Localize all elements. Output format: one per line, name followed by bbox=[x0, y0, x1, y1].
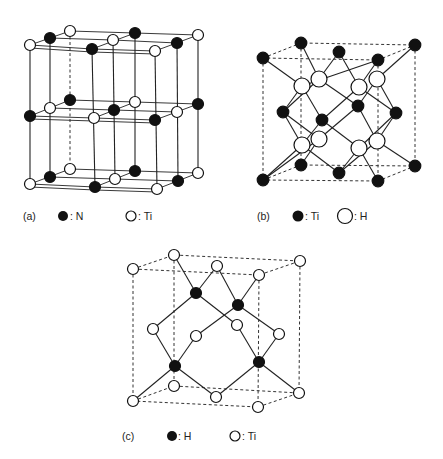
ti-atom bbox=[45, 103, 56, 114]
legend-b-open-text: : H bbox=[354, 210, 367, 222]
filled-circle-icon bbox=[58, 211, 68, 221]
ti-atom bbox=[232, 320, 243, 331]
filled-circle-icon bbox=[293, 211, 304, 222]
panel-a-structure bbox=[25, 26, 204, 195]
panel-a-legend: (a) : N : Ti bbox=[23, 210, 152, 222]
h-atom bbox=[311, 131, 327, 147]
ti-atom bbox=[128, 264, 139, 275]
ti-atom bbox=[295, 37, 307, 49]
ti-atom bbox=[274, 329, 285, 340]
ti-atom bbox=[295, 256, 306, 267]
ti-atom bbox=[169, 381, 180, 392]
ti-atom bbox=[409, 160, 421, 172]
ti-atom bbox=[25, 179, 36, 190]
ti-atom bbox=[172, 107, 183, 118]
ti-atom bbox=[211, 392, 222, 403]
n-atom bbox=[173, 176, 184, 187]
ti-atom bbox=[333, 46, 345, 58]
ti-atom bbox=[257, 174, 269, 186]
h-atom bbox=[311, 71, 327, 87]
ti-atom bbox=[193, 168, 204, 179]
ti-atom bbox=[333, 167, 345, 179]
ti-atom bbox=[372, 54, 384, 66]
ti-atom bbox=[294, 388, 305, 399]
n-atom bbox=[90, 182, 101, 193]
open-circle-icon bbox=[338, 209, 353, 224]
panel-c-label: (c) bbox=[122, 430, 134, 442]
ti-atom bbox=[409, 39, 421, 51]
n-atom bbox=[150, 115, 161, 126]
legend-c-open-text: : Ti bbox=[242, 430, 256, 442]
n-atom bbox=[130, 28, 141, 39]
h-atom bbox=[294, 137, 310, 153]
panel-b-legend: (b) : Ti : H bbox=[257, 209, 367, 224]
n-atom bbox=[45, 172, 56, 183]
h-atom bbox=[170, 361, 181, 372]
ti-atom bbox=[253, 402, 264, 413]
panel-b-structure bbox=[257, 37, 421, 187]
ti-atom bbox=[65, 26, 76, 37]
n-atom bbox=[65, 95, 76, 106]
n-atom bbox=[193, 99, 204, 110]
h-atom bbox=[369, 71, 385, 87]
ti-atom bbox=[191, 331, 202, 342]
h-atom bbox=[369, 133, 385, 149]
h-atom bbox=[191, 288, 202, 299]
ti-atom bbox=[169, 250, 180, 261]
ti-atom bbox=[390, 107, 402, 119]
panel-b-label: (b) bbox=[257, 210, 270, 222]
panel-c-legend: (c) : H : Ti bbox=[122, 430, 256, 442]
legend-c-filled-text: : H bbox=[178, 430, 191, 442]
panel-a-label: (a) bbox=[23, 210, 36, 222]
ti-atom bbox=[277, 106, 289, 118]
ti-atom bbox=[150, 46, 161, 57]
filled-circle-icon bbox=[167, 431, 177, 441]
n-atom bbox=[45, 33, 56, 44]
ti-atom bbox=[108, 35, 119, 46]
ti-atom bbox=[25, 40, 36, 51]
h-atom bbox=[351, 140, 367, 156]
n-atom bbox=[25, 111, 36, 122]
h-atom bbox=[233, 300, 244, 311]
ti-atom bbox=[110, 174, 121, 185]
n-atom bbox=[130, 166, 141, 177]
ti-atom bbox=[295, 159, 307, 171]
h-atom bbox=[254, 357, 265, 368]
legend-b-filled-text: : Ti bbox=[305, 210, 319, 222]
ti-atom bbox=[316, 114, 328, 126]
ti-atom bbox=[352, 100, 364, 112]
n-atom bbox=[172, 38, 183, 49]
panel-c-structure bbox=[128, 250, 306, 413]
ti-atom bbox=[372, 175, 384, 187]
ti-atom bbox=[130, 97, 141, 108]
h-atom bbox=[351, 79, 367, 95]
ti-atom bbox=[193, 30, 204, 41]
h-atom bbox=[294, 78, 310, 94]
ti-atom bbox=[152, 184, 163, 195]
legend-a-filled-text: : N bbox=[70, 210, 83, 222]
open-circle-icon bbox=[126, 211, 136, 221]
legend-a-open-text: : Ti bbox=[138, 210, 152, 222]
ti-atom bbox=[257, 52, 269, 64]
ti-atom bbox=[254, 270, 265, 281]
ti-atom bbox=[148, 324, 159, 335]
crystal-structures-figure: (a) : N : Ti bbox=[0, 0, 443, 459]
ti-atom bbox=[128, 396, 139, 407]
ti-atom bbox=[212, 261, 223, 272]
ti-atom bbox=[89, 113, 100, 124]
ti-atom bbox=[65, 164, 76, 175]
open-circle-icon bbox=[230, 431, 240, 441]
n-atom bbox=[109, 105, 120, 116]
n-atom bbox=[87, 44, 98, 55]
